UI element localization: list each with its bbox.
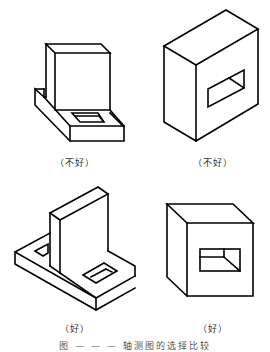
drawing-bottom-left-bracket	[15, 187, 135, 310]
label-top-right: （不好）	[193, 156, 233, 169]
drawing-bottom-right-box	[167, 204, 253, 296]
drawing-top-left-bracket	[35, 44, 124, 141]
figure-caption: 图 — — — 轴测图的选择比较	[59, 339, 210, 352]
label-top-left: （不好）	[55, 156, 95, 169]
label-bottom-left: （好）	[60, 322, 90, 335]
drawing-top-right-box	[164, 10, 258, 141]
label-bottom-right: （好）	[198, 322, 228, 335]
